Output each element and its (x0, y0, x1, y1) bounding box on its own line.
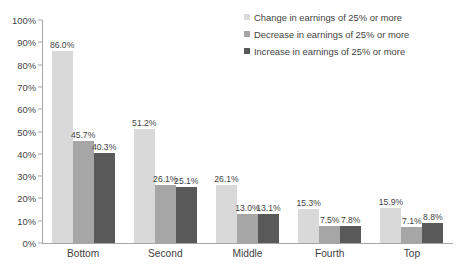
y-axis-tick-mark (38, 64, 42, 65)
bar-value-label: 26.1% (214, 174, 238, 184)
y-axis-tick-mark (38, 176, 42, 177)
bar[interactable]: 45.7% (73, 141, 94, 243)
bar[interactable]: 86.0% (52, 51, 73, 243)
bar-value-label: 15.9% (379, 197, 403, 207)
bar[interactable]: 7.5% (319, 226, 340, 243)
bar-value-label: 45.7% (71, 130, 95, 140)
bar[interactable]: 8.8% (422, 223, 443, 243)
x-axis-line (42, 243, 453, 244)
bar[interactable]: 15.3% (298, 209, 319, 243)
bar-slot: 26.1% (155, 20, 176, 243)
bar-slot: 7.5% (319, 20, 340, 243)
y-axis-tick-mark (38, 20, 42, 21)
bar-slot: 40.3% (94, 20, 115, 243)
bar-slot: 86.0% (52, 20, 73, 243)
bar-value-label: 86.0% (50, 40, 74, 50)
bar[interactable]: 7.8% (340, 226, 361, 243)
bar-group: 51.2%26.1%25.1% (124, 20, 206, 243)
bar-value-label: 15.3% (297, 198, 321, 208)
bar-slot: 7.1% (401, 20, 422, 243)
y-axis-tick-mark (38, 42, 42, 43)
y-axis-tick-mark (38, 243, 42, 244)
bar-group: 15.3%7.5%7.8% (289, 20, 371, 243)
bar-slot: 25.1% (176, 20, 197, 243)
y-axis-tick-mark (38, 86, 42, 87)
bar-groups: 86.0%45.7%40.3%51.2%26.1%25.1%26.1%13.0%… (42, 20, 453, 243)
y-axis-tick-mark (38, 198, 42, 199)
bar[interactable]: 13.1% (258, 214, 279, 243)
x-axis-category-label: Fourth (289, 248, 371, 259)
bar-value-label: 40.3% (92, 142, 116, 152)
bar-slot: 15.3% (298, 20, 319, 243)
bar-slot: 26.1% (216, 20, 237, 243)
bar-value-label: 25.1% (174, 176, 198, 186)
bar-slot: 13.0% (237, 20, 258, 243)
bar[interactable]: 40.3% (94, 153, 115, 243)
x-axis-category-label: Second (124, 248, 206, 259)
bar-slot: 13.1% (258, 20, 279, 243)
bar-slot: 15.9% (380, 20, 401, 243)
bar[interactable]: 51.2% (134, 129, 155, 243)
bar-value-label: 7.8% (341, 215, 361, 225)
y-axis-tick-mark (38, 109, 42, 110)
x-axis-labels: BottomSecondMiddleFourthTop (42, 248, 453, 259)
bar-chart: Change in earnings of 25% or moreDecreas… (0, 0, 461, 279)
bar-value-label: 13.1% (256, 203, 280, 213)
bar[interactable]: 26.1% (155, 185, 176, 243)
x-axis-category-label: Top (371, 248, 453, 259)
y-axis-tick-mark (38, 220, 42, 221)
bar-value-label: 8.8% (423, 212, 443, 222)
bar[interactable]: 15.9% (380, 208, 401, 243)
x-axis-category-label: Middle (206, 248, 288, 259)
bar-value-label: 51.2% (132, 118, 156, 128)
y-axis-tick-mark (38, 153, 42, 154)
bar-value-label: 7.1% (402, 216, 422, 226)
bar-slot: 51.2% (134, 20, 155, 243)
bar-value-label: 7.5% (320, 215, 340, 225)
bar-group: 26.1%13.0%13.1% (206, 20, 288, 243)
bar[interactable]: 7.1% (401, 227, 422, 243)
bar-slot: 7.8% (340, 20, 361, 243)
bar[interactable]: 25.1% (176, 187, 197, 243)
bar[interactable]: 13.0% (237, 214, 258, 243)
bar-slot: 45.7% (73, 20, 94, 243)
bar-group: 15.9%7.1%8.8% (371, 20, 453, 243)
bar[interactable]: 26.1% (216, 185, 237, 243)
legend-swatch-icon (244, 14, 250, 20)
bar-slot: 8.8% (422, 20, 443, 243)
y-axis-tick-mark (38, 131, 42, 132)
bar-group: 86.0%45.7%40.3% (42, 20, 124, 243)
x-axis-category-label: Bottom (42, 248, 124, 259)
